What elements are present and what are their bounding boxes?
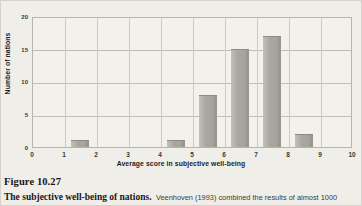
bar-face <box>199 95 214 147</box>
bar-side <box>214 95 217 147</box>
y-axis-title: Number of nations <box>4 9 11 119</box>
bar-series <box>33 18 351 147</box>
y-tick-5: 5 <box>14 112 28 118</box>
x-tick-1: 1 <box>57 151 71 158</box>
x-axis-title: Average score in subjective well-being <box>0 160 362 167</box>
caption-line: The subjective well-being of nations. Ve… <box>4 189 360 206</box>
bar-face <box>231 49 246 147</box>
caption-title: The subjective well-being of nations. <box>4 192 152 202</box>
x-tick-9: 9 <box>313 151 327 158</box>
bar-6 <box>295 134 313 147</box>
figure-number: Figure 10.27 <box>4 176 360 188</box>
bar-cap <box>295 134 313 135</box>
x-tick-0: 0 <box>25 151 39 158</box>
x-tick-4: 4 <box>153 151 167 158</box>
bar-2 <box>167 140 185 147</box>
x-tick-7: 7 <box>249 151 263 158</box>
y-tick-10: 10 <box>14 79 28 85</box>
chart-area: Number of nations 20 15 10 5 0 <box>0 0 362 172</box>
bar-cap <box>263 36 281 37</box>
bar-face <box>263 36 278 147</box>
bar-1 <box>71 140 89 147</box>
plot-frame <box>32 17 352 148</box>
x-tick-6: 6 <box>217 151 231 158</box>
y-tick-20: 20 <box>14 14 28 20</box>
x-tick-5: 5 <box>185 151 199 158</box>
bar-face <box>295 134 310 147</box>
bar-cap <box>167 140 185 141</box>
x-tick-3: 3 <box>121 151 135 158</box>
bar-side <box>278 36 281 147</box>
figure-page: Number of nations 20 15 10 5 0 <box>0 0 362 206</box>
bar-3 <box>199 95 217 147</box>
bar-cap <box>199 95 217 96</box>
bar-cap <box>231 49 249 50</box>
bar-4 <box>231 49 249 147</box>
y-tick-15: 15 <box>14 47 28 53</box>
bar-side <box>310 134 313 147</box>
figure-caption: Figure 10.27 The subjective well-being o… <box>4 176 360 206</box>
x-tick-2: 2 <box>89 151 103 158</box>
bar-cap <box>71 140 89 141</box>
x-tick-8: 8 <box>281 151 295 158</box>
bar-5 <box>263 36 281 147</box>
x-tick-10: 10 <box>345 151 359 158</box>
bar-side <box>246 49 249 147</box>
